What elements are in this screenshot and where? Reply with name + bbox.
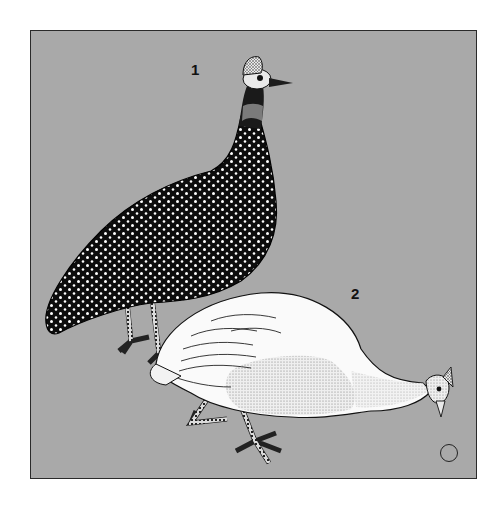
guinea-fowl-illustration bbox=[31, 31, 477, 479]
bird-2-belly bbox=[226, 356, 355, 415]
bird-2-beak bbox=[436, 401, 445, 417]
bird-2-white-guinea-fowl bbox=[150, 293, 453, 463]
bird-1-beak bbox=[269, 78, 293, 87]
circle-marker-icon bbox=[440, 444, 458, 462]
figure-label-2: 2 bbox=[351, 285, 359, 302]
figure-label-1: 1 bbox=[191, 61, 199, 78]
illustration-plate: 1 2 bbox=[30, 30, 477, 479]
bird-1-casque bbox=[243, 57, 262, 75]
